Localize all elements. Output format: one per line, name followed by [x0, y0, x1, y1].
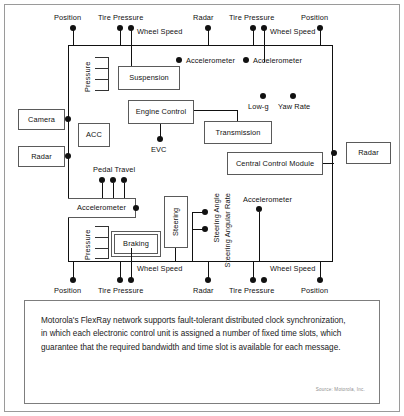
ecu-engine-control[interactable]: Engine Control — [128, 100, 194, 124]
sensor-evc[interactable] — [157, 136, 163, 142]
ecu-accelerometer-label: Accelerometer — [77, 204, 126, 212]
ecu-suspension-label: Suspension — [129, 74, 169, 82]
sensor-wheel-speed-bottom-left[interactable] — [128, 277, 134, 283]
node-radar-left-bus[interactable] — [65, 153, 71, 159]
label-yaw-rate: Yaw Rate — [278, 103, 310, 110]
sensor-radar-top[interactable] — [205, 25, 211, 31]
label-steering-angular-rate: Steering Angular Rate — [224, 193, 231, 267]
sensor-low-g[interactable] — [260, 93, 266, 99]
sensor-wheel-speed-top-left[interactable] — [128, 25, 134, 31]
sensor-accelerometer-top-left[interactable] — [176, 57, 182, 63]
ecu-radar-left-label: Radar — [31, 153, 52, 161]
label-evc: EVC — [151, 146, 167, 153]
stalk-accelerometer-bottom-right — [259, 212, 260, 262]
label-wheel-speed-bottom-right: Wheel Speed — [270, 265, 315, 272]
pressure-comb-top — [95, 57, 109, 91]
ecu-steering[interactable]: Steering — [164, 196, 188, 248]
label-radar-top: Radar — [193, 14, 214, 21]
sensor-tire-pressure-top-right-a[interactable] — [250, 25, 256, 31]
label-tire-pressure-top-left: Tire Pressure — [98, 14, 143, 21]
label-pedal-travel: Pedal Travel — [93, 166, 135, 173]
label-wheel-speed-bottom-left: Wheel Speed — [137, 265, 182, 272]
stalk-pedal-travel-3 — [124, 183, 125, 198]
label-accelerometer-top-right: Accelerometer — [253, 57, 302, 64]
sensor-wheel-speed-bottom-right[interactable] — [261, 277, 267, 283]
label-pressure-bottom: Pressure — [84, 222, 91, 260]
label-radar-bottom: Radar — [193, 287, 214, 294]
sensor-steering-angle[interactable] — [202, 209, 208, 215]
label-tire-pressure-bottom-right: Tire Pressure — [229, 287, 274, 294]
caption-panel: Motorola's FlexRay network supports faul… — [24, 300, 380, 404]
sensor-tire-pressure-top-left-a[interactable] — [117, 25, 123, 31]
sensor-radar-bottom[interactable] — [205, 277, 211, 283]
figure-page: Position Tire Pressure Wheel Speed Radar… — [0, 0, 404, 416]
sensor-position-top-left[interactable] — [70, 25, 76, 31]
caption-source: Source: Motorola, Inc. — [316, 387, 365, 392]
label-accelerometer-bottom-right: Accelerometer — [243, 196, 292, 203]
ecu-braking[interactable]: Braking — [111, 231, 161, 257]
label-position-top-right: Position — [301, 14, 328, 21]
ecu-camera-label: Camera — [28, 116, 55, 124]
ecu-radar-right[interactable]: Radar — [346, 142, 391, 164]
label-wheel-speed-top-right: Wheel Speed — [270, 28, 315, 35]
label-steering-angle: Steering Angle — [213, 193, 220, 242]
sensor-yaw-rate[interactable] — [290, 93, 296, 99]
link-suspension-bus — [131, 45, 132, 66]
caption-body: Motorola's FlexRay network supports faul… — [41, 314, 351, 354]
ecu-accelerometer[interactable]: Accelerometer — [68, 198, 136, 218]
sensor-accelerometer-top-right[interactable] — [243, 57, 249, 63]
node-camera-bus[interactable] — [65, 116, 71, 122]
node-radar-right-bus[interactable] — [331, 150, 337, 156]
ecu-central-control-module[interactable]: Central Control Module — [227, 152, 323, 175]
bus-divider-lower — [192, 230, 193, 262]
ecu-engine-control-label: Engine Control — [136, 108, 186, 116]
sensor-position-bottom-right[interactable] — [317, 277, 323, 283]
ecu-radar-left[interactable]: Radar — [18, 146, 65, 167]
label-position-bottom-left: Position — [54, 287, 81, 294]
label-wheel-speed-top-left: Wheel Speed — [137, 28, 182, 35]
ecu-transmission-label: Transmission — [216, 129, 261, 137]
sensor-steering-angular-rate[interactable] — [202, 226, 208, 232]
node-accelerometer-bus[interactable] — [133, 205, 139, 211]
sensor-tire-pressure-bottom-right[interactable] — [250, 277, 256, 283]
label-pressure-top: Pressure — [84, 52, 91, 92]
sensor-tire-pressure-bottom-left[interactable] — [117, 277, 123, 283]
stalk-pedal-travel-1 — [102, 183, 103, 198]
label-accelerometer-top-left: Accelerometer — [186, 57, 235, 64]
bus-branch-steering — [192, 212, 193, 230]
ecu-central-control-module-label: Central Control Module — [236, 160, 314, 168]
ecu-radar-right-label: Radar — [358, 149, 379, 157]
ecu-suspension[interactable]: Suspension — [118, 66, 180, 90]
link-ccm-bus — [323, 163, 334, 164]
label-tire-pressure-top-right: Tire Pressure — [229, 14, 274, 21]
flexray-network-diagram: Position Tire Pressure Wheel Speed Radar… — [0, 0, 404, 300]
ecu-transmission[interactable]: Transmission — [204, 121, 272, 144]
sensor-wheel-speed-top-right[interactable] — [261, 25, 267, 31]
ecu-acc[interactable]: ACC — [78, 123, 110, 147]
ecu-camera[interactable]: Camera — [18, 109, 65, 130]
ecu-steering-label: Steering — [172, 208, 180, 236]
stalk-pedal-travel-2 — [113, 183, 114, 198]
link-engine-transmission-h — [194, 110, 238, 111]
pressure-comb-bottom — [95, 226, 109, 259]
link-steering-bus — [175, 248, 176, 262]
sensor-position-bottom-left[interactable] — [70, 277, 76, 283]
label-position-bottom-right: Position — [301, 287, 328, 294]
sensor-position-top-right[interactable] — [317, 25, 323, 31]
stalk-wheel-speed-bottom-left — [131, 248, 132, 280]
label-low-g: Low-g — [248, 103, 269, 110]
ecu-acc-label: ACC — [86, 131, 102, 139]
ecu-braking-label: Braking — [123, 240, 149, 248]
label-tire-pressure-bottom-left: Tire Pressure — [98, 287, 143, 294]
label-position-top-left: Position — [54, 14, 81, 21]
